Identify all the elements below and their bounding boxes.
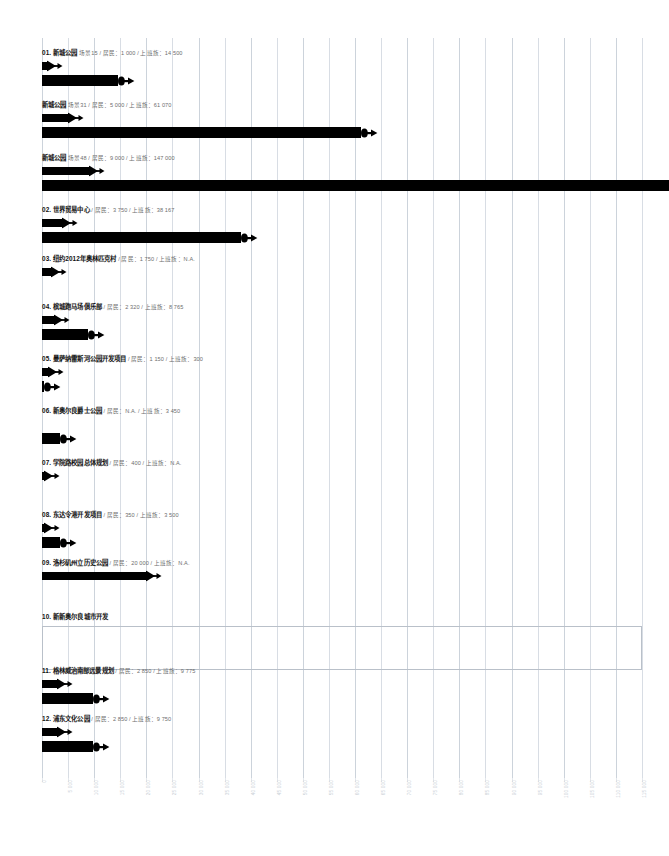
row-label: 09. 洛杉矶州立历史公园 / 居民：20 000 / 上班族：N.A. xyxy=(42,558,642,568)
row-label: 06. 新奥尔良爵士公园 / 居民：N.A. / 上班族：3 450 xyxy=(42,406,642,416)
workers-bar[interactable] xyxy=(42,75,118,86)
person-arrow-icon xyxy=(47,61,63,72)
person-arrow-icon xyxy=(62,218,78,229)
row-index: 09. xyxy=(42,559,53,566)
row-title: 曼萨纳雷斯河公园开发项目 xyxy=(53,355,126,362)
person-arrow-icon xyxy=(57,727,73,738)
worker-arrow-icon xyxy=(60,537,77,549)
bar-row[interactable]: 06. 新奥尔良爵士公园 / 居民：N.A. / 上班族：3 450 xyxy=(42,406,642,451)
bar-row[interactable]: 10. 新新奥尔良城市开发 xyxy=(42,612,642,656)
row-scenario: 场景31 xyxy=(66,102,88,108)
x-axis-tick-label: 65 000 xyxy=(381,780,386,795)
x-axis-tick-label: 115 000 xyxy=(642,780,647,798)
x-axis-tick: 85 000 xyxy=(485,780,500,785)
row-metrics: / 居民：9 000 / 上班族：147 000 xyxy=(88,155,174,161)
x-axis: 05 00010 00015 00020 00025 00030 00035 0… xyxy=(42,780,642,828)
row-title: 学院路校园总体规划 xyxy=(53,459,108,466)
bar-row[interactable]: 02. 世界贸易中心 / 居民：3 750 / 上班族：38 167 xyxy=(42,205,642,250)
row-metrics: / 居民：3 750 / 上班族：38 167 xyxy=(90,207,175,213)
row-title: 东达令港开发项目 xyxy=(53,511,102,518)
residents-bar[interactable] xyxy=(42,114,68,122)
row-label: 12. 浦东文化公园 / 居民：2 850 / 上班族：9 750 xyxy=(42,714,642,724)
workers-bar[interactable] xyxy=(42,433,60,444)
bar-row[interactable]: 01. 新城公园 场景15 / 居民：1 000 / 上班族：14 500 xyxy=(42,48,642,93)
x-axis-tick-label: 15 000 xyxy=(120,780,125,795)
x-axis-tick-label: 20 000 xyxy=(146,780,151,795)
bar-row[interactable]: 08. 东达令港开发项目 / 居民：350 / 上班族：3 500 xyxy=(42,510,642,555)
row-index: 06. xyxy=(42,407,53,414)
x-axis-tick: 40 000 xyxy=(251,780,266,785)
row-index: 12. xyxy=(42,715,53,722)
residents-bar[interactable] xyxy=(42,728,57,736)
bar-row[interactable]: 新城公园 场景31 / 居民：5 000 / 上班族：61 070 xyxy=(42,100,642,145)
workers-bar[interactable] xyxy=(42,180,669,191)
x-axis-tick-label: 5 000 xyxy=(68,780,73,793)
residents-bar[interactable] xyxy=(42,62,47,70)
x-axis-tick: 95 000 xyxy=(538,780,553,785)
workers-bar[interactable] xyxy=(42,381,44,392)
worker-arrow-icon xyxy=(241,232,258,244)
x-axis-tick-label: 50 000 xyxy=(303,780,308,795)
person-arrow-icon xyxy=(44,523,60,534)
residents-bar[interactable] xyxy=(42,219,62,227)
row-title: 洛杉矶州立历史公园 xyxy=(53,559,108,566)
residents-bar[interactable] xyxy=(42,524,44,532)
x-axis-tick-label: 30 000 xyxy=(199,780,204,795)
residents-bar[interactable] xyxy=(42,316,54,324)
workers-bar[interactable] xyxy=(42,329,88,340)
row-label: 04. 槟城跑马场俱乐部 / 居民：2 320 / 上班族：8 765 xyxy=(42,302,642,312)
worker-arrow-icon xyxy=(93,741,110,753)
x-axis-tick-label: 55 000 xyxy=(329,780,334,795)
workers-bar[interactable] xyxy=(42,741,93,752)
workers-bar-cap xyxy=(361,127,378,139)
workers-bar[interactable] xyxy=(42,127,361,138)
bar-row[interactable]: 09. 洛杉矶州立历史公园 / 居民：20 000 / 上班族：N.A. xyxy=(42,558,642,603)
row-label: 新城公园 场景48 / 居民：9 000 / 上班族：147 000 xyxy=(42,153,642,163)
x-axis-tick-label: 10 000 xyxy=(94,780,99,795)
x-axis-tick-label: 40 000 xyxy=(251,780,256,795)
bar-row[interactable]: 12. 浦东文化公园 / 居民：2 850 / 上班族：9 750 xyxy=(42,714,642,759)
row-index: 03. xyxy=(42,255,53,262)
x-axis-tick-label: 25 000 xyxy=(172,780,177,795)
row-index: 08. xyxy=(42,511,53,518)
workers-bar[interactable] xyxy=(42,232,241,243)
residents-bar[interactable] xyxy=(42,368,48,376)
row-label: 07. 学院路校园总体规划 / 居民：400 / 上班族：N.A. xyxy=(42,458,642,468)
bar-row[interactable]: 11. 格林威治南部远景规划 / 居民：2 850 / 上班族：9 775 xyxy=(42,666,642,711)
row-bars xyxy=(42,727,642,759)
x-axis-tick: 35 000 xyxy=(225,780,240,785)
x-axis-tick: 55 000 xyxy=(329,780,344,785)
workers-bar[interactable] xyxy=(42,537,60,548)
row-metrics: / 居民：N.A. / 上班族：3 450 xyxy=(102,408,180,414)
residents-bar[interactable] xyxy=(42,268,51,276)
residents-bar[interactable] xyxy=(42,167,89,175)
workers-bar-cap xyxy=(60,433,77,445)
x-axis-tick: 50 000 xyxy=(303,780,318,785)
bar-row[interactable]: 05. 曼萨纳雷斯河公园开发项目 / 居民：1 150 / 上班族：300 xyxy=(42,354,642,399)
row-bars xyxy=(42,624,642,656)
workers-bar[interactable] xyxy=(42,693,93,704)
residents-bar-cap xyxy=(57,727,73,738)
x-axis-tick-label: 105 000 xyxy=(590,780,595,798)
residents-bar[interactable] xyxy=(42,680,57,688)
x-axis-tick-label: 45 000 xyxy=(277,780,282,795)
x-axis-tick-label: 70 000 xyxy=(407,780,412,795)
bar-row[interactable]: 04. 槟城跑马场俱乐部 / 居民：2 320 / 上班族：8 765 xyxy=(42,302,642,347)
x-axis-tick: 105 000 xyxy=(590,780,608,785)
chart-root: 01. 新城公园 场景15 / 居民：1 000 / 上班族：14 500新城公… xyxy=(0,0,669,856)
residents-bar[interactable] xyxy=(42,472,44,480)
row-label: 08. 东达令港开发项目 / 居民：350 / 上班族：3 500 xyxy=(42,510,642,520)
row-label: 10. 新新奥尔良城市开发 xyxy=(42,612,642,621)
residents-bar[interactable] xyxy=(42,572,146,580)
bar-row[interactable]: 07. 学院路校园总体规划 / 居民：400 / 上班族：N.A. xyxy=(42,458,642,503)
bar-row[interactable]: 新城公园 场景48 / 居民：9 000 / 上班族：147 000 xyxy=(42,153,642,198)
row-metrics: / 居民：350 / 上班族：3 500 xyxy=(102,512,179,518)
row-title: 纽约2012年奥林匹克村 xyxy=(53,255,116,262)
row-bars xyxy=(42,419,642,451)
residents-bar-cap xyxy=(89,166,105,177)
x-axis-tick: 90 000 xyxy=(512,780,527,785)
row-bars xyxy=(42,166,642,198)
residents-bar-cap xyxy=(47,61,63,72)
row-title: 格林威治南部远景规划 xyxy=(53,667,114,674)
bar-row[interactable]: 03. 纽约2012年奥林匹克村 / 居民：1 750 / 上班族：N.A. xyxy=(42,254,642,299)
